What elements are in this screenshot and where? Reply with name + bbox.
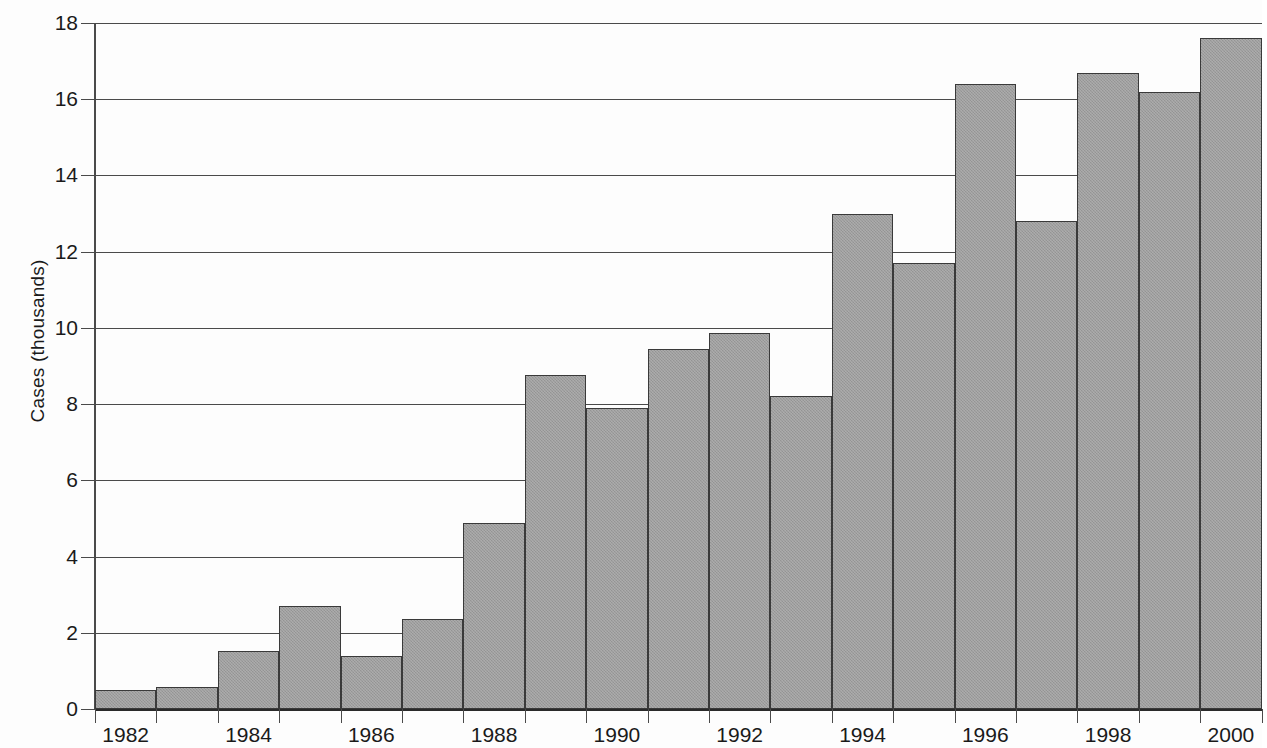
bar [1139,92,1200,709]
x-tick-label: 1988 [433,723,555,746]
x-tick-mark [1200,709,1201,723]
y-tick-mark [81,252,95,253]
bar [218,651,279,709]
bar [95,690,156,709]
y-tick-mark [81,23,95,24]
x-tick-mark [586,709,587,723]
x-tick-mark [156,709,157,723]
y-tick-label: 18 [32,12,78,33]
x-tick-label: 1994 [802,723,924,746]
bar [525,375,586,709]
bar [586,408,647,709]
x-tick-mark [1016,709,1017,723]
x-tick-mark [770,709,771,723]
bar [1077,73,1138,709]
y-tick-mark [81,175,95,176]
plot-area: 024681012141618 [95,23,1262,709]
x-tick-label: 1998 [1047,723,1169,746]
x-tick-label: 1992 [679,723,801,746]
bar [893,263,954,709]
x-tick-label: 2000 [1170,723,1267,746]
x-tick-mark [893,709,894,723]
y-tick-mark [81,557,95,558]
bar [279,606,340,709]
bar [955,84,1016,709]
bar [463,523,524,709]
x-tick-mark [1139,709,1140,723]
x-axis-line [95,709,1262,711]
y-tick-mark [81,480,95,481]
bar [402,619,463,709]
bar [770,396,831,709]
y-tick-label: 2 [32,622,78,643]
y-tick-label: 8 [32,393,78,414]
bar [156,687,217,709]
y-tick-label: 6 [32,469,78,490]
x-tick-label: 1986 [310,723,432,746]
bar [832,214,893,709]
x-tick-mark [955,709,956,723]
y-tick-mark [81,404,95,405]
y-tick-label: 0 [32,698,78,719]
x-tick-mark [525,709,526,723]
y-tick-label: 12 [32,241,78,262]
y-axis-spine [94,23,96,709]
bar [709,333,770,709]
bar [1016,221,1077,709]
x-tick-label: 1982 [65,723,187,746]
bar [341,656,402,709]
y-tick-mark [81,99,95,100]
x-tick-mark [463,709,464,723]
y-tick-mark [81,328,95,329]
y-tick-label: 14 [32,164,78,185]
y-tick-mark [81,709,95,710]
x-tick-mark [341,709,342,723]
x-tick-mark [218,709,219,723]
x-tick-label: 1984 [188,723,310,746]
bar [648,349,709,709]
x-tick-mark [709,709,710,723]
y-tick-label: 10 [32,317,78,338]
x-tick-label: 1996 [924,723,1046,746]
bar [1200,38,1261,709]
x-tick-mark [832,709,833,723]
x-tick-mark [1077,709,1078,723]
y-tick-mark [81,633,95,634]
x-tick-mark [95,709,96,723]
x-tick-mark [402,709,403,723]
x-tick-mark [279,709,280,723]
y-tick-label: 16 [32,88,78,109]
y-tick-label: 4 [32,546,78,567]
x-tick-mark [1262,709,1263,723]
x-tick-mark [648,709,649,723]
gridline [95,23,1262,24]
x-tick-label: 1990 [556,723,678,746]
